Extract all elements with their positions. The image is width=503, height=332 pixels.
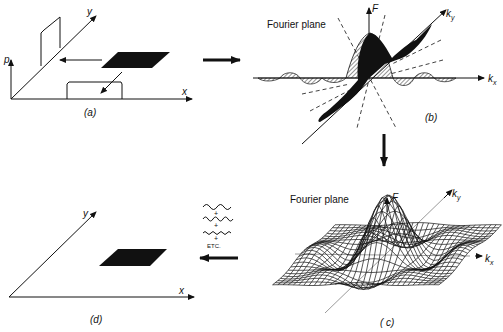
svg-text:+: + bbox=[214, 210, 218, 217]
svg-text:+: + bbox=[214, 235, 218, 242]
caption-c: ( c) bbox=[380, 317, 394, 328]
kx-axis-label-c: kx bbox=[485, 253, 494, 266]
caption-b: (b) bbox=[425, 112, 437, 123]
panel-b: Fourier plane F ky kx (b) bbox=[253, 3, 497, 144]
x-axis-label: x bbox=[181, 86, 188, 97]
fourier-plane-label-b: Fourier plane bbox=[267, 19, 326, 30]
wave-1 bbox=[203, 205, 231, 210]
ky-axis-label-b: ky bbox=[446, 8, 455, 22]
etc-label: ETC. bbox=[207, 243, 221, 249]
caption-d: (d) bbox=[90, 314, 102, 325]
panel-d: y x (d) bbox=[9, 208, 194, 325]
object-rectangle bbox=[101, 52, 170, 68]
F-axis-label-b: F bbox=[372, 3, 379, 14]
p-axis-label: p bbox=[3, 54, 10, 65]
panel-c: Fourier plane F ky kx ( c) bbox=[273, 188, 502, 328]
svg-text:+: + bbox=[214, 222, 218, 229]
caption-a: (a) bbox=[84, 107, 96, 118]
fourier-transform-diagram: p y x (a) Fourier pl bbox=[0, 0, 503, 332]
wave-2 bbox=[203, 217, 233, 221]
panel-a: p y x (a) bbox=[3, 6, 192, 118]
x-projection-profile bbox=[67, 82, 122, 99]
F-axis-label-c: F bbox=[392, 192, 399, 203]
wave-sum-legend: + + + ETC. bbox=[203, 205, 233, 250]
y-axis bbox=[11, 16, 96, 99]
reconstructed-object bbox=[99, 249, 167, 266]
ky-axis-label-c: ky bbox=[452, 188, 461, 202]
y-projection-profile bbox=[41, 17, 60, 66]
fourier-plane-label-c: Fourier plane bbox=[290, 194, 349, 205]
y-axis-d bbox=[9, 212, 96, 297]
y-axis-label-d: y bbox=[82, 208, 89, 219]
y-axis-label: y bbox=[86, 6, 93, 17]
kx-axis-label-b: kx bbox=[488, 73, 497, 86]
x-axis-label-d: x bbox=[178, 285, 185, 296]
